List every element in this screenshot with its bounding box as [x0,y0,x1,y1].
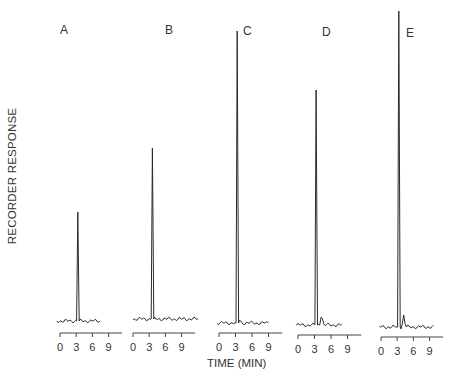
time-axes [60,333,443,341]
tick-label: 9 [179,341,185,353]
tick-label: 6 [89,341,95,353]
trace-a [57,212,100,323]
trace-d [296,90,341,327]
tick-labels: 03690369036903690369 [57,341,433,357]
y-axis-label: RECORDER RESPONSE [6,106,18,246]
trace-b [133,148,198,321]
tick-label: 0 [378,345,384,357]
tick-label: 3 [394,345,400,357]
tick-label: 3 [311,343,317,355]
tick-label: 3 [232,341,238,353]
tick-label: 9 [427,345,433,357]
tick-label: 6 [162,341,168,353]
tick-label: 9 [265,341,271,353]
tick-label: 3 [73,341,79,353]
panel-label-c: C [243,24,252,38]
chromatogram-figure: 03690369036903690369 [0,0,454,381]
tick-label: 9 [344,343,350,355]
chromatogram-traces [57,11,434,329]
tick-label: 0 [57,341,63,353]
tick-label: 0 [130,341,136,353]
x-axis-label: TIME (MIN) [207,357,266,369]
trace-c [217,31,268,325]
tick-label: 6 [249,341,255,353]
tick-label: 9 [106,341,112,353]
panel-label-b: B [165,23,173,37]
tick-label: 0 [216,341,222,353]
tick-label: 6 [410,345,416,357]
panel-label-e: E [406,26,414,40]
trace-e [379,11,433,329]
panel-label-a: A [60,23,68,37]
tick-label: 0 [295,343,301,355]
tick-label: 3 [146,341,152,353]
tick-label: 6 [328,343,334,355]
panel-label-d: D [322,25,331,39]
